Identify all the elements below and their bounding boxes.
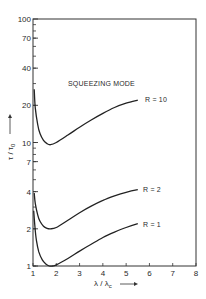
data-curves (34, 89, 138, 266)
curve-series-0 (34, 89, 138, 145)
x-axis-label: λ / λc (94, 279, 138, 289)
y-tick-label: 20 (22, 101, 31, 110)
y-tick-label: 7 (27, 158, 32, 167)
y-tick-label: 40 (22, 64, 31, 73)
svg-text:τ / τ0: τ / τ0 (6, 143, 16, 160)
y-tick-label: 100 (18, 15, 32, 24)
svg-text:λ / λc: λ / λc (94, 279, 112, 289)
chart-annotation: SQUEEZING MODE (68, 80, 135, 88)
x-tick-label: 4 (101, 269, 106, 278)
arrow-up-icon (8, 114, 12, 118)
curve-series-2 (34, 211, 138, 266)
curve-series-1 (34, 190, 138, 229)
y-tick-label: 4 (27, 188, 32, 197)
series-label-r2: R = 2 (143, 186, 161, 193)
x-tick-label: 2 (54, 269, 59, 278)
y-tick-label: 2 (27, 225, 32, 234)
x-tick-label: 5 (124, 269, 129, 278)
chart-container: 124710204070100 12345678 SQUEEZING MODE … (0, 0, 206, 299)
arrow-right-icon (134, 282, 138, 286)
y-tick-label: 70 (22, 34, 31, 43)
x-tick-label: 6 (147, 269, 152, 278)
plot-svg: 124710204070100 12345678 SQUEEZING MODE … (0, 0, 206, 299)
y-axis-label: τ / τ0 (6, 114, 16, 160)
x-tick-label: 1 (31, 269, 36, 278)
y-tick-label: 10 (22, 139, 31, 148)
x-tick-label: 8 (194, 269, 199, 278)
x-tick-label: 7 (170, 269, 175, 278)
series-label-r1: R = 1 (143, 221, 161, 228)
series-label-r10: R = 10 (145, 96, 167, 103)
x-tick-label: 3 (77, 269, 82, 278)
